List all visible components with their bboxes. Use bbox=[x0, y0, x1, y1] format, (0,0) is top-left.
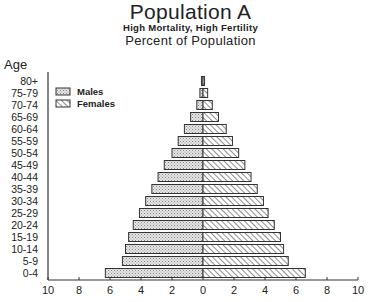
bar-males-30-34 bbox=[146, 197, 203, 206]
bar-males-50-54 bbox=[172, 149, 203, 158]
bar-females-75-79 bbox=[203, 89, 208, 98]
bars-group bbox=[105, 77, 305, 278]
age-label: 5-9 bbox=[23, 255, 38, 267]
bar-males-0-4 bbox=[105, 269, 203, 278]
bar-males-5-9 bbox=[122, 257, 203, 266]
age-label: 25-29 bbox=[11, 207, 38, 219]
bar-males-65-69 bbox=[191, 113, 203, 122]
age-label: 60-64 bbox=[11, 123, 38, 135]
age-label: 45-49 bbox=[11, 159, 38, 171]
age-label: 55-59 bbox=[11, 135, 38, 147]
legend-label-males: Males bbox=[77, 86, 103, 97]
bar-females-30-34 bbox=[203, 197, 263, 206]
legend-swatch-males bbox=[56, 88, 70, 95]
bar-females-0-4 bbox=[203, 269, 305, 278]
x-tick-label: 8 bbox=[324, 284, 330, 296]
bar-females-55-59 bbox=[203, 137, 232, 146]
x-tick-label: 6 bbox=[107, 284, 113, 296]
age-label: 0-4 bbox=[23, 267, 38, 279]
bar-females-45-49 bbox=[203, 161, 245, 170]
legend-label-females: Females bbox=[77, 98, 115, 109]
bar-females-5-9 bbox=[203, 257, 288, 266]
age-label: 40-44 bbox=[11, 171, 38, 183]
x-tick-label: 6 bbox=[293, 284, 299, 296]
bar-females-50-54 bbox=[203, 149, 239, 158]
x-tick-label: 4 bbox=[262, 284, 268, 296]
bar-females-20-24 bbox=[203, 221, 274, 230]
x-tick-label: 0 bbox=[200, 284, 206, 296]
bar-females-35-39 bbox=[203, 185, 257, 194]
x-tick-label: 8 bbox=[76, 284, 82, 296]
age-label: 10-14 bbox=[11, 243, 38, 255]
bar-females-65-69 bbox=[203, 113, 219, 122]
bar-males-25-29 bbox=[139, 209, 203, 218]
bar-males-40-44 bbox=[158, 173, 203, 182]
age-category-labels: 0-45-910-1415-1920-2425-2930-3435-3940-4… bbox=[11, 75, 38, 279]
bar-males-70-74 bbox=[197, 101, 203, 110]
bar-males-35-39 bbox=[152, 185, 203, 194]
x-tick-label: 4 bbox=[138, 284, 144, 296]
legend: MalesFemales bbox=[56, 86, 115, 109]
age-label: 20-24 bbox=[11, 219, 38, 231]
bar-males-15-19 bbox=[129, 233, 203, 242]
age-label: 30-34 bbox=[11, 195, 38, 207]
age-label: 35-39 bbox=[11, 183, 38, 195]
bar-males-20-24 bbox=[133, 221, 203, 230]
bar-females-70-74 bbox=[203, 101, 212, 110]
age-label: 50-54 bbox=[11, 147, 38, 159]
bar-females-10-14 bbox=[203, 245, 284, 254]
bar-males-45-49 bbox=[164, 161, 203, 170]
bar-females-25-29 bbox=[203, 209, 268, 218]
age-label: 65-69 bbox=[11, 111, 38, 123]
x-tick-label: 10 bbox=[42, 284, 54, 296]
bar-males-55-59 bbox=[178, 137, 203, 146]
population-pyramid-chart: 1086420246810 0-45-910-1415-1920-2425-29… bbox=[0, 0, 381, 302]
age-label: 75-79 bbox=[11, 87, 38, 99]
bar-males-10-14 bbox=[126, 245, 204, 254]
x-tick-label: 2 bbox=[169, 284, 175, 296]
age-label: 15-19 bbox=[11, 231, 38, 243]
x-tick-label: 10 bbox=[352, 284, 364, 296]
bar-males-60-64 bbox=[184, 125, 203, 134]
bar-females-15-19 bbox=[203, 233, 281, 242]
age-label: 70-74 bbox=[11, 99, 38, 111]
bar-females-80+ bbox=[203, 77, 205, 86]
age-label: 80+ bbox=[20, 75, 38, 87]
bar-females-40-44 bbox=[203, 173, 251, 182]
bar-females-60-64 bbox=[203, 125, 226, 134]
legend-swatch-females bbox=[56, 100, 70, 107]
x-tick-label: 2 bbox=[231, 284, 237, 296]
